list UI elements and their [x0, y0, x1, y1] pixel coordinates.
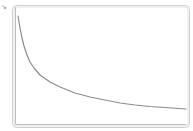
chart-frame — [13, 6, 190, 128]
decay-curve-line — [18, 16, 186, 109]
chart-plot — [0, 0, 193, 131]
chart-frame-inner — [14, 7, 188, 126]
